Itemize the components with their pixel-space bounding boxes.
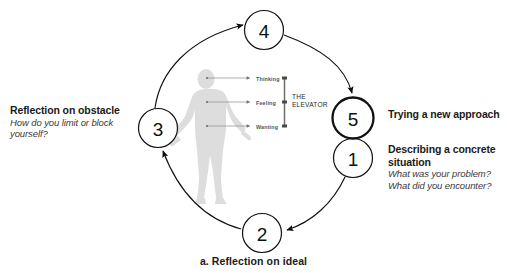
- annotation-line-1: What was your problem?: [388, 168, 506, 180]
- node-label-2: 2: [257, 224, 268, 245]
- annotation-line-2: What did you encounter?: [388, 180, 506, 192]
- node-label-4: 4: [259, 21, 270, 42]
- elevator-title-line-2: ELEVATOR: [292, 101, 328, 109]
- annotation-trying-a-new-approach: Trying a new approach: [388, 108, 507, 121]
- arc-4-to-5: [284, 35, 352, 93]
- node-label-1: 1: [348, 149, 359, 170]
- elevator-level-feeling: Feeling: [256, 100, 276, 106]
- elevator-level-thinking: Thinking: [256, 76, 280, 82]
- annotation-line-1: How do you limit or block: [10, 117, 160, 129]
- elevator-title-line-1: THE: [292, 93, 328, 101]
- node-label-5: 5: [348, 109, 359, 130]
- diagram-canvas: 4 1 5 2 3: [0, 0, 507, 273]
- annotation-describing-a-concrete-situation: Describing a concrete situation What was…: [388, 143, 506, 191]
- human-silhouette-icon: [170, 69, 251, 204]
- diagram-caption: a. Reflection on ideal: [0, 255, 507, 268]
- arc-1-to-2: [287, 177, 345, 230]
- diagram-caption-text: a. Reflection on ideal: [0, 255, 507, 268]
- elevator-title: THE ELEVATOR: [292, 93, 328, 109]
- elevator-level-wanting: Wanting: [256, 124, 278, 130]
- annotation-heading: Reflection on obstacle: [10, 104, 160, 117]
- elevator-bar: [282, 77, 287, 128]
- annotation-heading-line-2: situation: [388, 156, 506, 169]
- annotation-line-2: yourself?: [10, 128, 160, 140]
- annotation-heading-line-1: Describing a concrete: [388, 143, 506, 156]
- annotation-reflection-on-obstacle: Reflection on obstacle How do you limit …: [10, 104, 160, 140]
- node-circles: 4 1 5 2 3: [139, 11, 374, 253]
- annotation-heading: Trying a new approach: [388, 108, 507, 121]
